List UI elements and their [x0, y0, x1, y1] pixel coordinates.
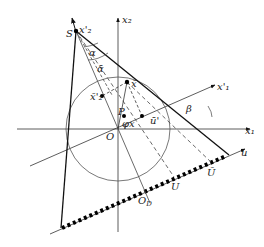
label-phi-x: φx — [122, 118, 135, 129]
detector-line — [62, 156, 226, 228]
label-beta: β — [185, 103, 192, 114]
label-S: S — [66, 28, 73, 39]
label-alpha: α — [89, 47, 96, 58]
label-O-D: OD — [138, 195, 152, 208]
label-x2: x₂ — [122, 14, 132, 25]
label-P: P — [117, 106, 125, 117]
ray-dashed-2 — [76, 31, 112, 95]
label-x2-bar-prime: x̄'₂ — [90, 91, 102, 102]
beta-arc — [208, 106, 212, 117]
label-u: u — [241, 147, 247, 158]
label-x1: x₁ — [245, 125, 255, 136]
label-u-bar-prime: ū' — [150, 115, 159, 126]
label-alpha-bar: ᾱ — [97, 63, 104, 74]
label-x-bar: x̄ — [131, 78, 137, 89]
point-S — [74, 29, 78, 33]
ray-left — [61, 31, 76, 228]
label-U: U — [171, 181, 180, 192]
label-O: O — [106, 131, 114, 142]
ray-x-ubar — [127, 82, 212, 163]
label-U-bar: Ū — [207, 167, 216, 178]
label-x1-prime: x'₁ — [217, 81, 229, 92]
point-u-prime — [140, 114, 144, 118]
ray-central — [76, 31, 150, 203]
label-x2-prime: x'₂ — [79, 24, 91, 35]
point-x — [125, 80, 129, 84]
geometry-diagram: S x'₂ x₂ x₁ x'₁ α ᾱ x̄ x̄'₂ P φx ū' β O … — [0, 0, 264, 247]
